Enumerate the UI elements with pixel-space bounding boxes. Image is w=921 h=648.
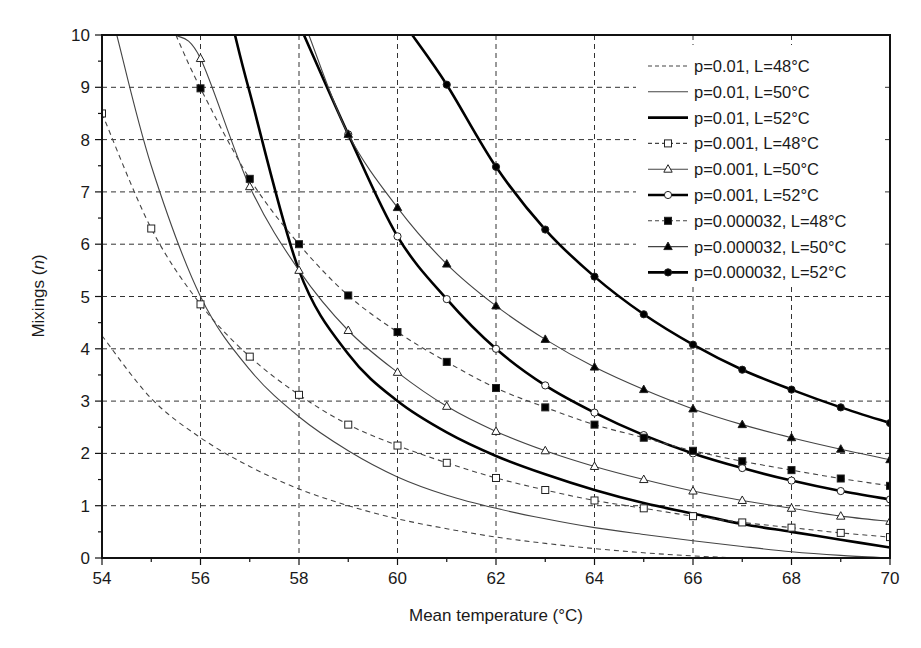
circle-marker-icon bbox=[788, 386, 795, 393]
circle-marker-icon bbox=[443, 296, 450, 303]
legend-label: p=0.001, L=50°C bbox=[694, 160, 819, 178]
triangle-marker-icon bbox=[196, 54, 204, 62]
x-tick-label: 64 bbox=[585, 569, 604, 588]
x-tick-label: 60 bbox=[388, 569, 407, 588]
y-tick-label: 0 bbox=[81, 549, 90, 568]
y-tick-label: 1 bbox=[81, 497, 90, 516]
y-tick-label: 6 bbox=[81, 235, 90, 254]
legend-label: p=0.001, L=48°C bbox=[694, 134, 819, 152]
legend-label: p=0.01, L=50°C bbox=[694, 83, 810, 101]
legend-label: p=0.01, L=48°C bbox=[694, 57, 810, 75]
circle-marker-icon bbox=[837, 404, 844, 411]
y-tick-label: 10 bbox=[71, 26, 90, 45]
y-tick-label: 5 bbox=[81, 288, 90, 307]
x-tick-label: 58 bbox=[290, 569, 309, 588]
circle-marker-icon bbox=[542, 382, 549, 389]
square-marker-icon bbox=[345, 292, 352, 299]
circle-marker-icon bbox=[739, 366, 746, 373]
square-marker-icon bbox=[665, 217, 672, 224]
square-marker-icon bbox=[739, 519, 746, 526]
circle-marker-icon bbox=[591, 273, 598, 280]
y-tick-label: 4 bbox=[81, 340, 90, 359]
circle-marker-icon bbox=[664, 269, 671, 276]
triangle-marker-icon bbox=[590, 363, 598, 371]
legend-label: p=0.01, L=52°C bbox=[694, 109, 810, 127]
square-marker-icon bbox=[394, 442, 401, 449]
square-marker-icon bbox=[739, 458, 746, 465]
circle-marker-icon bbox=[788, 477, 795, 484]
legend-label: p=0.000032, L=48°C bbox=[694, 212, 847, 230]
square-marker-icon bbox=[443, 459, 450, 466]
y-tick-label: 8 bbox=[81, 131, 90, 150]
triangle-marker-icon bbox=[541, 335, 549, 343]
x-tick-label: 70 bbox=[881, 569, 900, 588]
square-marker-icon bbox=[542, 404, 549, 411]
square-marker-icon bbox=[197, 85, 204, 92]
circle-marker-icon bbox=[664, 191, 671, 198]
circle-marker-icon bbox=[591, 409, 598, 416]
legend-label: p=0.000032, L=50°C bbox=[694, 238, 847, 256]
circle-marker-icon bbox=[492, 345, 499, 352]
square-marker-icon bbox=[493, 474, 500, 481]
x-tick-label: 56 bbox=[191, 569, 210, 588]
circle-marker-icon bbox=[394, 233, 401, 240]
square-marker-icon bbox=[837, 475, 844, 482]
circle-marker-icon bbox=[443, 81, 450, 88]
square-marker-icon bbox=[690, 447, 697, 454]
square-marker-icon bbox=[591, 421, 598, 428]
square-marker-icon bbox=[148, 225, 155, 232]
x-tick-label: 68 bbox=[782, 569, 801, 588]
square-marker-icon bbox=[591, 497, 598, 504]
square-marker-icon bbox=[246, 353, 253, 360]
x-tick-label: 54 bbox=[93, 569, 112, 588]
chart: 545658606264666870012345678910 Mean temp… bbox=[0, 0, 921, 648]
square-marker-icon bbox=[690, 513, 697, 520]
square-marker-icon bbox=[493, 385, 500, 392]
square-marker-icon bbox=[394, 329, 401, 336]
square-marker-icon bbox=[640, 434, 647, 441]
triangle-marker-icon bbox=[393, 368, 401, 376]
square-marker-icon bbox=[542, 487, 549, 494]
circle-marker-icon bbox=[542, 226, 549, 233]
x-tick-label: 62 bbox=[487, 569, 506, 588]
square-marker-icon bbox=[197, 301, 204, 308]
legend: p=0.01, L=48°Cp=0.01, L=50°Cp=0.01, L=52… bbox=[636, 45, 884, 285]
circle-marker-icon bbox=[739, 464, 746, 471]
y-tick-label: 7 bbox=[81, 183, 90, 202]
square-marker-icon bbox=[246, 175, 253, 182]
square-marker-icon bbox=[837, 529, 844, 536]
y-tick-label: 2 bbox=[81, 444, 90, 463]
square-marker-icon bbox=[665, 140, 672, 147]
triangle-marker-icon bbox=[246, 182, 254, 190]
legend-label: p=0.001, L=52°C bbox=[694, 186, 819, 204]
circle-marker-icon bbox=[689, 341, 696, 348]
circle-marker-icon bbox=[492, 163, 499, 170]
square-marker-icon bbox=[640, 505, 647, 512]
circle-marker-icon bbox=[640, 311, 647, 318]
legend-label: p=0.000032, L=52°C bbox=[694, 263, 847, 281]
square-marker-icon bbox=[345, 421, 352, 428]
square-marker-icon bbox=[443, 358, 450, 365]
square-marker-icon bbox=[788, 524, 795, 531]
square-marker-icon bbox=[296, 391, 303, 398]
y-axis-label: Mixings (n) bbox=[29, 254, 48, 337]
x-axis-label: Mean temperature (°C) bbox=[409, 606, 583, 625]
y-tick-label: 3 bbox=[81, 392, 90, 411]
circle-marker-icon bbox=[837, 487, 844, 494]
square-marker-icon bbox=[296, 241, 303, 248]
x-tick-label: 66 bbox=[684, 569, 703, 588]
y-tick-label: 9 bbox=[81, 78, 90, 97]
triangle-marker-icon bbox=[492, 301, 500, 309]
square-marker-icon bbox=[788, 467, 795, 474]
triangle-marker-icon bbox=[443, 402, 451, 410]
